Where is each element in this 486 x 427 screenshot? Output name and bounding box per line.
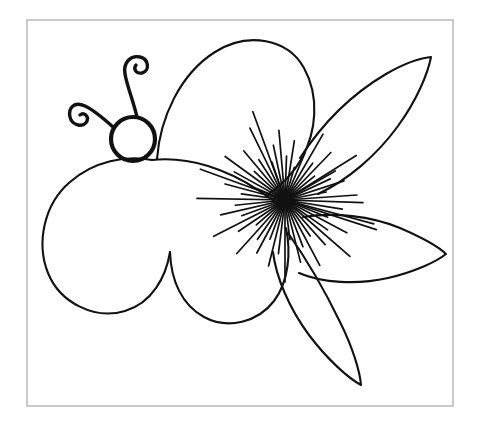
stamen-ray-54 [253,112,285,200]
butterfly-head-circle [111,117,155,161]
petal-outline-1 [43,158,170,313]
drawing-canvas [0,0,486,427]
petal-outline-3 [152,159,285,208]
petal-outline-6 [273,233,361,385]
petal-outline-4 [300,57,431,194]
stamen-core [278,193,292,207]
petal-outline-2 [170,228,288,323]
stamen-ray-22 [214,200,285,236]
antenna-0 [125,57,148,117]
image-frame-border [27,20,453,406]
line-art-illustration [0,0,486,427]
antenna-group [70,57,148,127]
stamen-burst-group [197,112,376,282]
petal-outline-group [43,40,446,385]
antenna-1 [70,104,113,127]
